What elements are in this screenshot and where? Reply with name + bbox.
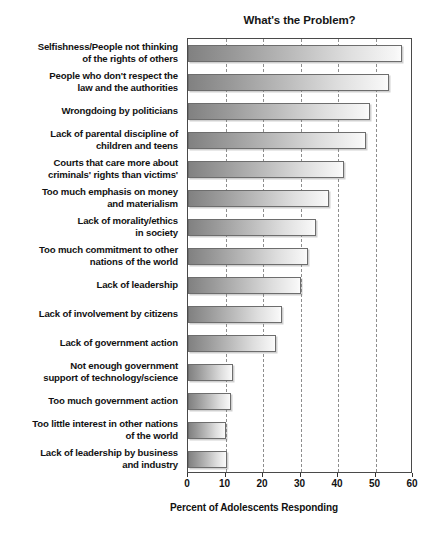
x-tick-label: 40 (322, 478, 352, 489)
x-tick-label: 50 (360, 478, 390, 489)
bar-row (188, 74, 413, 92)
bar[interactable] (188, 335, 276, 353)
category-label: Courts that care more about criminals' r… (0, 157, 178, 180)
category-label: Lack of leadership (0, 279, 178, 290)
x-tick-mark (300, 473, 301, 477)
x-tick-label: 20 (247, 478, 277, 489)
bar[interactable] (188, 190, 329, 208)
x-axis-title: Percent of Adolescents Responding (170, 502, 438, 513)
bar[interactable] (188, 451, 227, 469)
bar[interactable] (188, 306, 282, 324)
bar-row (188, 103, 413, 121)
bar[interactable] (188, 161, 344, 179)
category-label: Too little interest in other nations of … (0, 418, 178, 441)
bar[interactable] (188, 277, 301, 295)
category-label: Selfishness/People not thinking of the r… (0, 41, 178, 64)
x-tick-mark (412, 473, 413, 477)
bar[interactable] (188, 364, 233, 382)
x-tick-label: 10 (210, 478, 240, 489)
category-axis-labels: Selfishness/People not thinking of the r… (0, 38, 182, 473)
category-label: Too much emphasis on money and materiali… (0, 186, 178, 209)
category-label: Lack of leadership by business and indus… (0, 447, 178, 470)
bar-row (188, 277, 413, 295)
category-label: Lack of government action (0, 337, 178, 348)
category-label: Lack of morality/ethics in society (0, 215, 178, 238)
bar-row (188, 161, 413, 179)
category-label: Too much government action (0, 395, 178, 406)
bar[interactable] (188, 248, 308, 266)
bar[interactable] (188, 422, 226, 440)
bar-row (188, 335, 413, 353)
x-tick-mark (262, 473, 263, 477)
category-label: Too much commitment to other nations of … (0, 244, 178, 267)
x-tick-mark (337, 473, 338, 477)
bar-row (188, 364, 413, 382)
bar[interactable] (188, 219, 316, 237)
category-label: Wrongdoing by politicians (0, 105, 178, 116)
bar-row (188, 190, 413, 208)
x-tick-label: 30 (285, 478, 315, 489)
bar-row (188, 45, 413, 63)
plot-area (187, 38, 412, 473)
bar[interactable] (188, 45, 402, 63)
chart-figure: What's the Problem? Selfishness/People n… (0, 0, 438, 534)
bar-row (188, 422, 413, 440)
bar[interactable] (188, 393, 231, 411)
bar[interactable] (188, 103, 370, 121)
bar[interactable] (188, 132, 366, 150)
x-tick-label: 0 (172, 478, 202, 489)
bar-row (188, 451, 413, 469)
bar-row (188, 219, 413, 237)
category-label: Not enough government support of technol… (0, 360, 178, 383)
category-label: Lack of parental discipline of children … (0, 128, 178, 151)
chart-title: What's the Problem? (187, 14, 412, 26)
x-tick-mark (187, 473, 188, 477)
bar[interactable] (188, 74, 389, 92)
x-tick-mark (225, 473, 226, 477)
bar-row (188, 306, 413, 324)
bar-row (188, 132, 413, 150)
category-label: Lack of involvement by citizens (0, 308, 178, 319)
category-label: People who don't respect the law and the… (0, 70, 178, 93)
bar-row (188, 393, 413, 411)
bar-row (188, 248, 413, 266)
x-tick-label: 60 (397, 478, 427, 489)
x-tick-mark (375, 473, 376, 477)
